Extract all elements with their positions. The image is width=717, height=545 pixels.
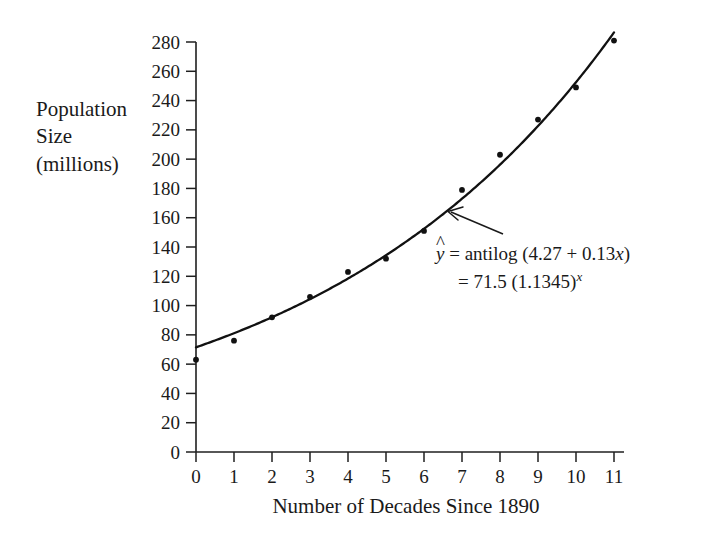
x-tick-label: 9 (533, 466, 543, 487)
data-point (269, 314, 275, 320)
data-point (383, 256, 389, 262)
y-tick-label: 0 (171, 442, 181, 463)
annotation-arrow (448, 207, 503, 234)
y-tick-label: 40 (161, 383, 180, 404)
chart-figure: 020406080100120140160180200220240260280 … (0, 0, 717, 545)
x-tick-label: 3 (305, 466, 315, 487)
data-point (535, 117, 541, 123)
data-point-group (193, 38, 617, 363)
equation-line-1: y^ = antilog (4.27 + 0.13x) (436, 243, 630, 264)
x-axis-tick-labels: 01234567891011 (191, 466, 623, 487)
data-point (459, 187, 465, 193)
y-tick-label: 280 (152, 32, 181, 53)
data-point (193, 357, 199, 363)
y-tick-label: 260 (152, 61, 181, 82)
x-tick-label: 1 (229, 466, 239, 487)
equation-line-1-close: ) (624, 243, 630, 264)
data-point (231, 338, 237, 344)
hat-accent: ^ (436, 229, 444, 257)
x-tick-label: 6 (419, 466, 429, 487)
equation-line-2-body: = 71.5 (1.1345) (458, 271, 576, 292)
data-point (345, 269, 351, 275)
x-tick-label: 5 (381, 466, 391, 487)
equation-line-1-variable: x (615, 243, 623, 264)
data-point (611, 38, 617, 44)
data-point (421, 228, 427, 234)
x-tick-label: 7 (457, 466, 467, 487)
exponential-fit-curve (196, 32, 614, 347)
x-tick-label: 11 (605, 466, 623, 487)
equation-line-1-body: = antilog (4.27 + 0.13 (444, 243, 615, 264)
arrow-shaft (451, 212, 503, 234)
y-tick-label: 60 (161, 354, 180, 375)
x-axis-title: Number of Decades Since 1890 (196, 494, 616, 519)
data-point (307, 294, 313, 300)
y-tick-label: 140 (152, 237, 181, 258)
data-point (573, 84, 579, 90)
equation-line-2: = 71.5 (1.1345)x (436, 268, 630, 296)
y-axis-ticks (186, 42, 196, 452)
y-tick-label: 100 (152, 295, 181, 316)
x-tick-label: 8 (495, 466, 505, 487)
y-tick-label: 180 (152, 178, 181, 199)
y-tick-label: 80 (161, 324, 180, 345)
data-point (497, 152, 503, 158)
x-tick-label: 10 (567, 466, 586, 487)
x-tick-label: 2 (267, 466, 277, 487)
y-axis-title: Population Size (millions) (36, 96, 186, 178)
y-hat-symbol: y^ (436, 243, 444, 264)
x-tick-label: 0 (191, 466, 201, 487)
x-axis-ticks (196, 452, 614, 462)
fit-equation-annotation: y^ = antilog (4.27 + 0.13x) = 71.5 (1.13… (436, 240, 630, 295)
equation-line-2-exponent: x (576, 269, 582, 284)
y-tick-label: 160 (152, 207, 181, 228)
x-tick-label: 4 (343, 466, 353, 487)
y-tick-label: 20 (161, 412, 180, 433)
y-tick-label: 120 (152, 266, 181, 287)
